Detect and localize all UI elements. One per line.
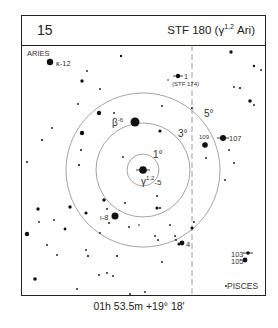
star (156, 195, 158, 197)
star (51, 127, 53, 129)
star (248, 99, 252, 103)
star (228, 149, 230, 151)
star (233, 162, 235, 164)
star (122, 156, 124, 158)
star (229, 50, 232, 53)
star (87, 255, 89, 257)
star (224, 179, 226, 181)
labeled-star (112, 213, 119, 220)
star-label: (STF 174) (172, 81, 199, 87)
star (129, 293, 131, 295)
star (106, 208, 108, 210)
star (120, 55, 122, 57)
star (175, 239, 177, 241)
star (86, 70, 88, 72)
star (161, 105, 163, 107)
labeled-star (131, 118, 140, 127)
star (98, 274, 100, 276)
star (112, 275, 114, 277)
star (174, 235, 176, 237)
star (116, 255, 118, 257)
star-label: β-6 (112, 117, 124, 128)
star (56, 254, 58, 256)
star (97, 111, 101, 115)
star (239, 87, 241, 89)
star-label: 109 (199, 134, 210, 140)
star (85, 249, 87, 251)
star (99, 88, 101, 90)
star (41, 139, 43, 141)
star (26, 161, 28, 163)
star (253, 104, 255, 106)
star (99, 232, 101, 234)
labeled-star (180, 241, 185, 246)
labeled-star (202, 142, 208, 148)
constellation-label: PISCES (227, 281, 259, 291)
ring-label: 5° (204, 108, 214, 119)
star (102, 198, 105, 201)
star-label: 1 (184, 72, 188, 81)
ring-label: 1° (153, 149, 163, 160)
star (64, 228, 67, 231)
star (80, 131, 84, 135)
star-label: 4 (186, 240, 190, 249)
star (124, 202, 126, 204)
star (155, 206, 158, 209)
star (260, 69, 262, 71)
labeled-star (47, 59, 53, 65)
star (108, 222, 110, 224)
star (53, 219, 55, 221)
star (113, 112, 115, 114)
star (233, 86, 235, 88)
star (84, 211, 87, 214)
star-label: 107 (229, 134, 242, 143)
coordinates-label: 01h 53.5m +19° 18′ (0, 300, 278, 312)
star (25, 232, 29, 236)
star (46, 244, 48, 246)
star-label: κ-12 (56, 59, 71, 68)
star (144, 291, 146, 293)
star (80, 149, 82, 151)
star (193, 221, 195, 223)
star (167, 79, 169, 81)
star (68, 205, 71, 208)
star-label: γ1,2-5 (141, 175, 162, 187)
star (191, 107, 193, 109)
star-label: 105 (231, 257, 244, 266)
star-map: 1°3°5°ARIESPISCESκ-121(STF 174)β-6109107… (0, 0, 278, 328)
star (77, 103, 79, 105)
star (33, 277, 37, 281)
star (157, 239, 159, 241)
star (190, 226, 193, 229)
star (36, 207, 39, 210)
ring-label: 3° (178, 128, 188, 139)
star (80, 79, 83, 82)
star (253, 65, 255, 67)
star (106, 272, 108, 274)
star (78, 164, 80, 166)
star (76, 288, 78, 290)
star (38, 221, 40, 223)
star (169, 224, 171, 226)
constellation-label: ARIES (27, 49, 50, 58)
star-label: ι-8 (100, 213, 108, 222)
star (128, 226, 130, 228)
star (161, 261, 163, 263)
star (205, 157, 207, 159)
star (158, 129, 161, 132)
star (154, 235, 156, 237)
star (138, 224, 140, 226)
star (159, 207, 161, 209)
